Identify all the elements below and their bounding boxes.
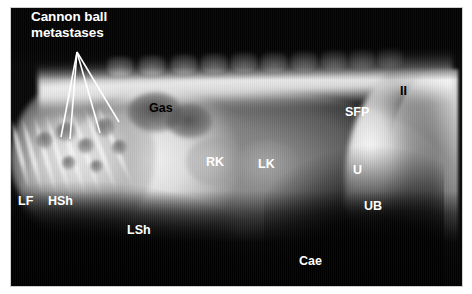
- anatomy-label-lk: LK: [258, 157, 275, 171]
- callout-leader-lines: [0, 0, 472, 294]
- anatomy-label-lsh: LSh: [127, 223, 151, 237]
- anatomy-label-cae: Cae: [299, 254, 322, 268]
- figure-root: Cannon ball metastases GasSFPIIRKLKUUBLF…: [0, 0, 472, 294]
- cannon-ball-metastases-label: Cannon ball metastases: [31, 9, 107, 40]
- leader-line-3: [77, 52, 100, 133]
- annotation-layer: Cannon ball metastases GasSFPIIRKLKUUBLF…: [0, 0, 472, 294]
- callout-line-1: Cannon ball: [31, 9, 107, 24]
- anatomy-label-u: U: [353, 163, 362, 177]
- leader-line-1: [61, 52, 77, 137]
- anatomy-label-ii: II: [400, 84, 407, 98]
- anatomy-label-sfp: SFP: [345, 105, 369, 119]
- anatomy-label-hsh: HSh: [48, 194, 73, 208]
- anatomy-label-gas: Gas: [149, 101, 173, 115]
- anatomy-label-lf: LF: [18, 194, 33, 208]
- anatomy-label-rk: RK: [206, 155, 224, 169]
- anatomy-label-ub: UB: [364, 199, 382, 213]
- leader-line-2: [70, 52, 77, 139]
- leader-line-4: [77, 52, 119, 122]
- callout-line-2: metastases: [31, 25, 107, 41]
